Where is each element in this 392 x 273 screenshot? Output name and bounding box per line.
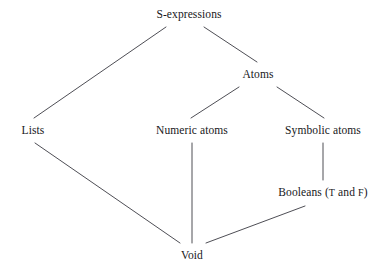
node-lists: Lists bbox=[22, 124, 45, 137]
node-label-part: ) bbox=[364, 186, 368, 198]
edge-lists-void bbox=[35, 143, 180, 243]
node-s-expressions: S-expressions bbox=[156, 8, 221, 21]
node-symbolic-atoms: Symbolic atoms bbox=[285, 124, 361, 137]
diagram-canvas: S-expressions Atoms Lists Numeric atoms … bbox=[0, 0, 392, 273]
node-atoms: Atoms bbox=[242, 68, 273, 81]
edge-s-expressions-atoms bbox=[204, 27, 257, 62]
node-label-part: Booleans ( bbox=[278, 186, 329, 198]
node-numeric-atoms: Numeric atoms bbox=[156, 124, 228, 137]
node-booleans: Booleans (T and F) bbox=[278, 186, 367, 199]
edge-layer bbox=[0, 0, 392, 273]
edge-atoms-numeric-atoms bbox=[191, 87, 239, 118]
edge-booleans-void bbox=[206, 206, 305, 243]
node-void: Void bbox=[181, 249, 203, 262]
edge-s-expressions-lists bbox=[34, 27, 166, 118]
edge-atoms-symbolic-atoms bbox=[277, 87, 324, 118]
node-label-part: and bbox=[335, 186, 358, 198]
